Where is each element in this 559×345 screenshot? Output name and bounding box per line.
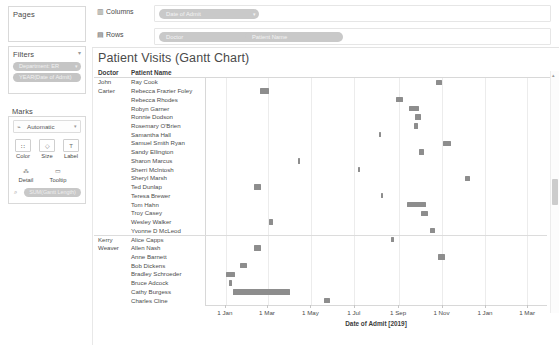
row-header-patient: Tom Hahn [131,201,159,208]
filter-pill-year[interactable]: YEAR(Date of Admit) [13,73,81,82]
rows-pill-doctor[interactable]: Doctor▾ [159,32,255,42]
filters-card: Filters ▾ Department: ER▾ YEAR(Date of A… [8,46,86,94]
axis-tick [527,305,528,308]
gantt-bar[interactable] [443,141,451,146]
chevron-down-icon[interactable]: ▾ [74,121,77,132]
automatic-icon: ⌁ [17,122,21,133]
gantt-bar[interactable] [419,149,424,154]
marks-buttons-row-2: ⁂ Detail ▭ Tooltip [9,165,85,183]
marks-tooltip-button[interactable]: ▭ Tooltip [47,165,69,183]
gantt-bar[interactable] [254,184,261,189]
chevron-down-icon[interactable]: ▾ [78,50,81,57]
rows-pill-patient-name[interactable]: Patient Name [245,32,343,42]
row-header-patient: Alice Capps [131,236,164,243]
gantt-bar[interactable] [438,254,445,259]
gantt-bar[interactable] [254,245,261,250]
row-header-patient: Charles Cline [131,297,168,304]
gantt-bar[interactable] [229,280,233,285]
gantt-bar[interactable] [233,289,290,294]
gantt-bar[interactable] [391,237,394,242]
row-header-patient: Sandy Ellington [131,148,173,155]
axis-tick-label: 1 Nov [433,309,449,316]
pages-card-title: Pages [9,7,85,21]
gantt-bar[interactable] [430,228,435,233]
plot-region: JohnCarterRay CookRebecca Frazier FoleyR… [94,78,547,305]
gridline [311,78,312,305]
scroll-up-icon[interactable]: ▴ [552,72,555,78]
label-icon: T [63,139,79,152]
gantt-bar[interactable] [414,123,418,128]
gridline [226,78,227,305]
row-header-patient: Ronnie Dodson [131,113,173,120]
page-title: Patient Visits (Gantt Chart) [98,51,249,65]
row-header-patient: Bradley Schroeder [131,270,181,277]
marks-size-button[interactable]: ◇ Size [36,139,58,159]
filter-pill-department[interactable]: Department: ER▾ [13,62,81,71]
columns-dropzone[interactable]: Date of Admit▾ [154,5,551,22]
rows-icon: ▤ [97,31,104,39]
gantt-panel [205,78,547,305]
chevron-down-icon[interactable]: ▾ [75,62,78,71]
mark-type-select[interactable]: ⌁ Automatic ▾ [13,120,81,133]
tableau-worksheet: Pages Filters ▾ Department: ER▾ YEAR(Dat… [0,0,559,345]
gantt-bar[interactable] [358,167,360,172]
row-header-patient: Samantha Hall [131,131,171,138]
gantt-bar[interactable] [324,298,330,303]
gantt-bar[interactable] [381,193,383,198]
row-header-patient: Rebecca Rhodes [131,96,178,103]
marks-tooltip-label: Tooltip [47,177,69,183]
row-header-patient: Ray Cook [131,78,158,85]
row-header-doctor: Carter [98,87,115,94]
axis-tick-label: 1 Sep [390,309,406,316]
rows-dropzone[interactable]: Doctor▾ Patient Name [154,28,551,45]
scrollbar-thumb[interactable] [552,179,558,205]
vertical-scrollbar[interactable]: ▴ [550,71,559,313]
rows-label: Rows [106,31,124,38]
gantt-bar[interactable] [240,263,247,268]
axis-tick [310,305,311,308]
group-divider [94,235,547,236]
columns-pill-date-of-admit[interactable]: Date of Admit▾ [159,9,259,19]
gantt-bar[interactable] [407,202,425,207]
gantt-bar[interactable] [421,211,428,216]
gantt-bar[interactable] [298,158,300,163]
gantt-bar[interactable] [396,97,402,102]
gantt-bar[interactable] [465,176,469,181]
gridline [399,78,400,305]
row-header-patient: Sherri McIntosh [131,166,174,173]
gantt-bar[interactable] [436,80,442,85]
gantt-bar[interactable] [379,132,381,137]
marks-pill-row: ⌕ SUM(Gantt Length) [13,188,81,198]
mark-type-value: Automatic [27,123,55,130]
marks-label-button[interactable]: T Label [60,139,82,159]
row-header-patient: Allen Nash [131,244,160,251]
gantt-bar[interactable] [415,114,421,119]
axis-tick [442,305,443,308]
pages-card: Pages [8,6,86,42]
column-header-patient-name: Patient Name [131,69,172,76]
row-header-patient: Rosemary O'Brien [131,122,181,129]
marks-detail-button[interactable]: ⁂ Detail [15,165,37,183]
axis-tick [398,305,399,308]
marks-pill-size[interactable]: SUM(Gantt Length) [24,188,81,197]
gantt-bar[interactable] [409,106,419,111]
row-header-patient: Sheryl Marsh [131,174,167,181]
gantt-bar[interactable] [260,88,269,93]
row-header-patient: Teresa Brewer [131,192,170,199]
axis-tick-label: 1 Mar [259,309,275,316]
row-header-patient: Rebecca Frazier Foley [131,87,192,94]
row-header-patient: Robyn Garner [131,105,169,112]
marks-color-button[interactable]: ∷ Color [12,139,34,159]
axis-tick-label: 1 Jul [347,309,360,316]
row-header-patient: Bruce Adcock [131,279,168,286]
axis-tick-label: 1 Jan [477,309,492,316]
axis-tick-label: 1 Mar [519,309,535,316]
marks-color-label: Color [12,153,34,159]
x-axis: 1 Jan1 Mar1 May1 Jul1 Sep1 Nov1 Jan1 Mar… [205,305,547,335]
chevron-down-icon[interactable]: ▾ [253,9,256,19]
row-header-doctor: John [98,78,111,85]
gantt-bar[interactable] [269,219,273,224]
gantt-bar[interactable] [226,272,235,277]
magnifier-icon: ⌕ [14,189,17,196]
gridline [485,78,486,305]
